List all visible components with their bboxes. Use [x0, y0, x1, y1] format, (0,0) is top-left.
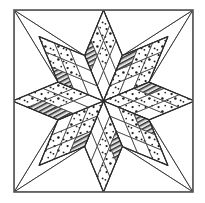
- star-points-group: [13, 10, 195, 192]
- quilt-block-figure: Eight-Pointed Star Quilt Block Line-draw…: [0, 0, 205, 203]
- quilt-block-diagram: [0, 0, 205, 203]
